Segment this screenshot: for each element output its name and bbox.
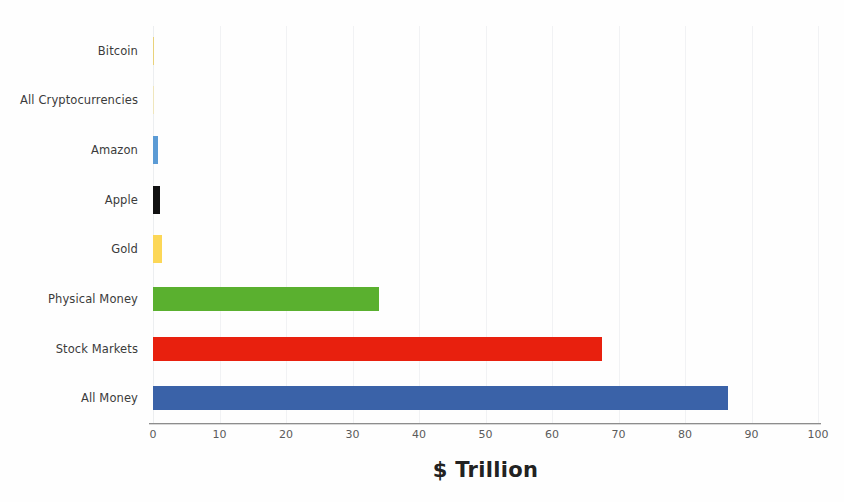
bar [153, 235, 162, 263]
category-label: Amazon [91, 125, 138, 175]
x-axis-title: $ Trillion [153, 458, 818, 482]
category-label: Stock Markets [56, 324, 138, 374]
x-tick-label: 30 [346, 428, 360, 441]
bar-row [153, 225, 818, 275]
x-tick-label: 60 [545, 428, 559, 441]
bar [153, 37, 154, 65]
category-label: All Money [81, 373, 138, 423]
bar-row [153, 125, 818, 175]
bar-row [153, 324, 818, 374]
x-axis-ticks: 0102030405060708090100 [153, 428, 818, 446]
category-label: Gold [111, 225, 138, 275]
category-axis-labels: BitcoinAll CryptocurrenciesAmazonAppleGo… [0, 26, 146, 423]
bar [153, 386, 728, 410]
x-tick-label: 100 [808, 428, 829, 441]
bar [153, 136, 158, 164]
bar-row [153, 26, 818, 76]
x-tick-label: 50 [479, 428, 493, 441]
bar [153, 337, 602, 361]
category-label: Bitcoin [98, 26, 138, 76]
x-tick-label: 20 [279, 428, 293, 441]
bar [153, 287, 379, 311]
gridline [818, 26, 819, 423]
x-tick-label: 10 [213, 428, 227, 441]
bar-row [153, 175, 818, 225]
x-tick-label: 0 [150, 428, 157, 441]
category-label: Apple [105, 175, 138, 225]
category-label: All Cryptocurrencies [20, 76, 138, 126]
x-tick-label: 40 [412, 428, 426, 441]
x-tick-label: 70 [612, 428, 626, 441]
bar-rows [153, 26, 818, 423]
x-tick-label: 80 [678, 428, 692, 441]
bar-row [153, 373, 818, 423]
bar-row [153, 76, 818, 126]
x-tick-label: 90 [745, 428, 759, 441]
bar-chart: BitcoinAll CryptocurrenciesAmazonAppleGo… [0, 0, 844, 502]
category-label: Physical Money [48, 274, 138, 324]
bar-row [153, 274, 818, 324]
x-axis-line [149, 423, 821, 424]
bar [153, 86, 154, 114]
bar [153, 186, 160, 214]
plot-area [153, 26, 818, 423]
